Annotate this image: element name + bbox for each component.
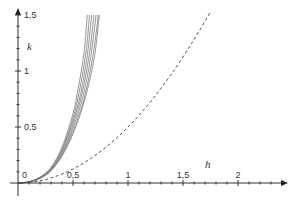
y-axis-label: k <box>27 40 33 52</box>
x-tick-label: 1,5 <box>177 170 190 180</box>
tick-labels-group: 0,511,520,511,5 <box>24 10 241 180</box>
y-tick-label: 1 <box>24 66 29 76</box>
x-axis-label: h <box>205 158 211 170</box>
x-tick-label: 0,5 <box>67 170 80 180</box>
x-tick-label: 1 <box>125 170 130 180</box>
origin-label: 0 <box>22 170 27 180</box>
y-axis-arrow-icon <box>15 8 21 15</box>
x-tick-label: 2 <box>235 170 240 180</box>
y-tick-label: 1,5 <box>24 10 37 20</box>
curves-group <box>18 12 211 183</box>
dashed-curve <box>18 12 211 183</box>
chart: 0,511,520,511,5 0 h k <box>0 0 300 203</box>
y-tick-label: 0,5 <box>24 122 37 132</box>
ticks-group <box>15 15 271 186</box>
x-axis-arrow-icon <box>281 180 288 186</box>
